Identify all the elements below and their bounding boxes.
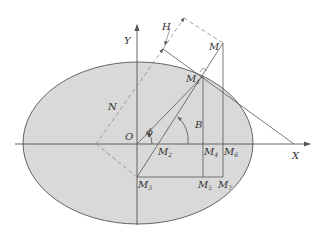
- label-o: O: [125, 131, 133, 142]
- label-y: Y: [124, 35, 132, 46]
- right-angle-mark: [200, 68, 207, 72]
- ellipse-diagram: Y X O H M N B ϕ M1 M2 M3 M4 M5 M6 M7: [0, 0, 323, 236]
- label-phi: ϕ: [146, 126, 153, 137]
- h-extension-line: [184, 18, 223, 43]
- label-b: B: [194, 119, 202, 130]
- label-x: X: [291, 150, 300, 161]
- label-h: H: [161, 21, 171, 32]
- label-n: N: [107, 101, 118, 112]
- label-m: M: [208, 41, 220, 52]
